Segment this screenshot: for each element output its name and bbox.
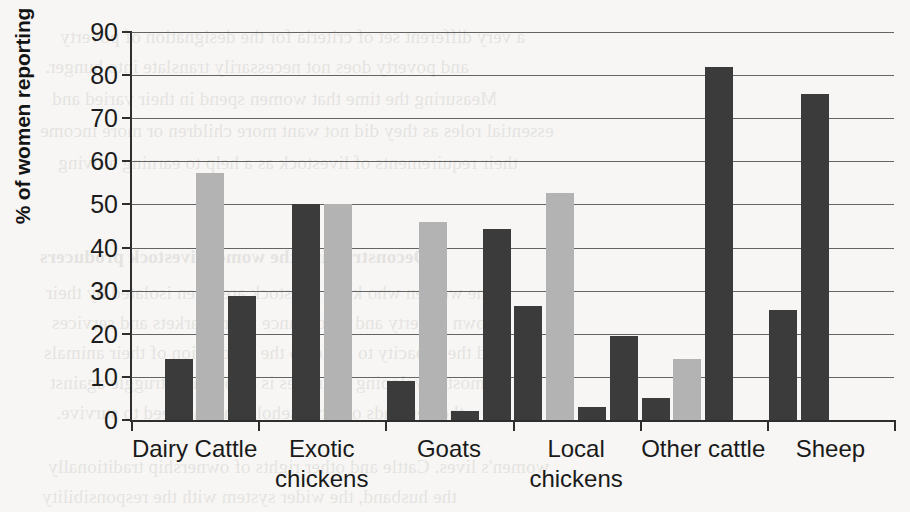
y-tick-label-10: 10 — [72, 362, 118, 391]
x-axis-category-label: Other cattle — [640, 434, 767, 464]
x-tick-mark-1 — [258, 421, 260, 431]
y-tick-label-60: 60 — [72, 147, 118, 176]
bar — [419, 222, 447, 420]
x-tick-mark-3 — [513, 421, 515, 431]
bar — [642, 398, 670, 420]
y-tick-label-50: 50 — [72, 190, 118, 219]
y-tick-mark-20 — [122, 333, 131, 335]
x-axis-category-label: Sheep — [767, 434, 894, 464]
x-axis-category-label-line: Local — [513, 434, 640, 464]
y-tick-mark-10 — [122, 376, 131, 378]
x-axis-category-label-line: Goats — [385, 434, 512, 464]
gridline-60 — [131, 161, 894, 162]
x-axis-category-label-line: chickens — [258, 464, 385, 494]
bar — [673, 359, 701, 420]
x-tick-mark-0 — [131, 421, 133, 431]
bar — [483, 229, 511, 420]
x-axis-category-label: Dairy Cattle — [131, 434, 258, 464]
bar — [705, 67, 733, 421]
x-axis-category-label-line: Dairy Cattle — [131, 434, 258, 464]
x-axis-category-label-line: Sheep — [767, 434, 894, 464]
y-tick-label-40: 40 — [72, 233, 118, 262]
y-tick-mark-80 — [122, 74, 131, 76]
y-tick-mark-30 — [122, 290, 131, 292]
x-axis-category-label: Goats — [385, 434, 512, 464]
bar — [801, 94, 829, 420]
bar — [165, 359, 193, 420]
bar — [610, 336, 638, 420]
y-tick-mark-90 — [122, 31, 131, 33]
x-axis-category-label-line: Exotic — [258, 434, 385, 464]
y-tick-mark-70 — [122, 117, 131, 119]
bar — [451, 411, 479, 420]
plot-area — [131, 32, 894, 420]
y-tick-mark-60 — [122, 160, 131, 162]
gridline-80 — [131, 75, 894, 76]
y-tick-label-90: 90 — [72, 18, 118, 47]
chart-figure: a very different set of criteria for the… — [0, 0, 910, 512]
y-tick-label-0: 0 — [72, 406, 118, 435]
y-tick-label-30: 30 — [72, 276, 118, 305]
x-axis-category-label-line: chickens — [513, 464, 640, 494]
y-tick-label-80: 80 — [72, 61, 118, 90]
y-tick-label-70: 70 — [72, 104, 118, 133]
gridline-50 — [131, 204, 894, 205]
x-axis-category-label: Localchickens — [513, 434, 640, 494]
x-axis-category-label: Exoticchickens — [258, 434, 385, 494]
bar — [514, 306, 542, 420]
x-axis-category-label-line: Other cattle — [640, 434, 767, 464]
bar — [769, 310, 797, 420]
bar — [292, 204, 320, 420]
x-tick-mark-5 — [767, 421, 769, 431]
x-tick-mark-6 — [894, 421, 896, 431]
gridline-90 — [131, 32, 894, 33]
bar — [324, 204, 352, 420]
y-axis-tick-labels: 0102030405060708090 — [28, 0, 118, 512]
bar — [387, 381, 415, 420]
bar — [578, 407, 606, 420]
bar — [546, 193, 574, 420]
gridline-40 — [131, 248, 894, 249]
bar — [196, 173, 224, 420]
x-tick-mark-4 — [640, 421, 642, 431]
y-tick-mark-0 — [122, 419, 131, 421]
gridline-70 — [131, 118, 894, 119]
bar — [228, 296, 256, 420]
y-tick-mark-40 — [122, 247, 131, 249]
gridline-30 — [131, 291, 894, 292]
y-tick-label-20: 20 — [72, 319, 118, 348]
x-tick-mark-2 — [385, 421, 387, 431]
y-tick-mark-50 — [122, 203, 131, 205]
